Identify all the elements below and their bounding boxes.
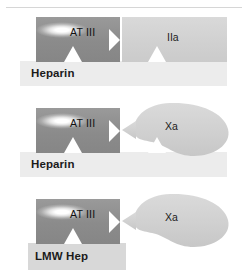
antithrombin-iii-bottom-notch-icon bbox=[64, 137, 82, 153]
antithrombin-iii-bottom-notch-icon bbox=[64, 228, 82, 244]
lmw-heparin-bar-label: LMW Hep bbox=[35, 250, 88, 262]
antithrombin-iii-right-chevron-icon bbox=[109, 29, 120, 51]
antithrombin-iii-bottom-notch-icon bbox=[64, 46, 82, 62]
antithrombin-iii-label: AT III bbox=[70, 208, 95, 220]
factor-iia-bottom-notch-icon bbox=[148, 46, 166, 62]
antithrombin-iii-right-chevron-icon bbox=[109, 211, 120, 233]
antithrombin-iii-right-chevron-icon bbox=[109, 120, 120, 142]
heparin-bar-label: Heparin bbox=[31, 158, 75, 170]
panel-heparin-iia: Heparin IIa AT III bbox=[0, 0, 247, 92]
factor-xa-label: Xa bbox=[165, 211, 178, 223]
factor-xa-bottom-notch-icon bbox=[148, 137, 166, 153]
factor-iia-label: IIa bbox=[167, 31, 179, 43]
panel-heparin-xa: Heparin Xa AT III bbox=[0, 91, 247, 183]
panel-lmw-hep-xa: LMW Hep Xa AT III bbox=[0, 182, 247, 274]
antithrombin-iii-label: AT III bbox=[70, 117, 95, 129]
factor-xa-label: Xa bbox=[165, 120, 178, 132]
antithrombin-iii-label: AT III bbox=[70, 26, 95, 38]
heparin-bar-label: Heparin bbox=[31, 67, 75, 79]
mechanism-diagram-figure: Heparin IIa AT III Heparin bbox=[0, 0, 247, 274]
